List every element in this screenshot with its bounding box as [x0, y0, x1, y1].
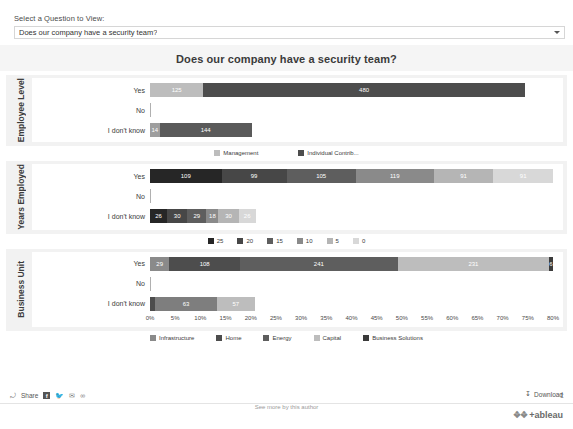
bar-segment[interactable]: 91 [493, 169, 553, 183]
bar-segment[interactable]: 99 [222, 169, 287, 183]
bar-segment[interactable]: 105 [287, 169, 356, 183]
zero-value-tick [150, 277, 151, 291]
panel-axis-title-text: Years Employed [16, 164, 26, 230]
bar-row-label: Yes [32, 87, 150, 94]
x-axis-tick-label: 65% [471, 315, 483, 321]
legend-swatch [150, 335, 156, 341]
question-dropdown[interactable]: Does our company have a security team? [14, 26, 565, 39]
download-group[interactable]: ↧ Download [525, 390, 563, 398]
twitter-icon[interactable]: 🐦 [55, 392, 64, 399]
email-icon[interactable]: ✉ [69, 392, 75, 399]
bottom-toolbar: ⤾ Share f 🐦 ✉ ∞ ↥ [0, 388, 573, 404]
bar-segment[interactable]: 119 [356, 169, 434, 183]
bar-segment[interactable]: 480 [203, 83, 524, 97]
bar-row-label: I don't know [32, 127, 150, 134]
stacked-bar[interactable]: 109991051199191 [150, 169, 553, 183]
page-title: Does our company have a security team? [0, 45, 573, 71]
bar-track [150, 102, 553, 118]
question-filter-zone: Select a Question to View: Does our comp… [0, 0, 573, 39]
bar-row[interactable]: I don't know6357 [32, 296, 553, 312]
legend-item[interactable]: Home [216, 335, 241, 341]
bar-row-label: Yes [32, 173, 150, 180]
tableau-logo[interactable]: ❖❖ +ableau [513, 410, 563, 420]
download-label[interactable]: Download [534, 391, 563, 398]
bar-track: 6357 [150, 296, 553, 312]
legend-item[interactable]: Business Solutions [363, 335, 423, 341]
stacked-bar[interactable]: 125480 [150, 83, 553, 97]
legend-item[interactable]: 0 [353, 238, 365, 244]
legend-item[interactable]: 25 [208, 238, 224, 244]
bar-row[interactable]: No [32, 276, 553, 292]
bar-row[interactable]: I don't know14144 [32, 122, 553, 138]
legend-label: Business Solutions [372, 335, 423, 341]
panel-axis-title: Business Unit [10, 252, 32, 327]
stacked-bar[interactable]: 291082412316 [150, 257, 553, 271]
share-arrow-icon[interactable]: ⤾ [10, 392, 16, 399]
bar-track: 263029183026 [150, 208, 553, 224]
panel-axis-title: Employee Level [10, 78, 32, 142]
chart-legend: 2520151050 [0, 234, 573, 245]
bar-row[interactable]: Yes125480 [32, 82, 553, 98]
legend-label: Management [223, 150, 258, 156]
legend-item[interactable]: 10 [297, 238, 313, 244]
bar-row[interactable]: I don't know263029183026 [32, 208, 553, 224]
x-axis-tick-label: 5% [171, 315, 180, 321]
question-dropdown-value: Does our company have a security team? [19, 28, 157, 37]
bar-segment[interactable]: 241 [240, 257, 398, 271]
bar-segment[interactable]: 26 [239, 209, 256, 223]
bar-segment[interactable]: 91 [434, 169, 494, 183]
legend-item[interactable]: 15 [267, 238, 283, 244]
legend-item[interactable]: Energy [263, 335, 291, 341]
legend-item[interactable]: 5 [327, 238, 339, 244]
facebook-icon[interactable]: f [43, 392, 50, 399]
bar-segment[interactable]: 63 [155, 297, 217, 311]
author-link[interactable]: See more by this author [0, 404, 573, 410]
stacked-bar[interactable]: 263029183026 [150, 209, 553, 223]
bar-track [150, 188, 553, 204]
stacked-bar[interactable]: 14144 [150, 123, 553, 137]
legend-item[interactable]: 20 [237, 238, 253, 244]
legend-item[interactable]: Management [214, 150, 258, 156]
bar-segment[interactable]: 29 [187, 209, 206, 223]
bar-segment[interactable]: 125 [150, 83, 203, 97]
bar-row-label: No [32, 280, 150, 287]
bar-segment[interactable]: 14 [150, 123, 160, 137]
bar-segment[interactable]: 6 [549, 257, 553, 271]
bar-segment[interactable]: 57 [217, 297, 255, 311]
link-icon[interactable]: ∞ [80, 392, 85, 399]
bar-segment[interactable]: 231 [398, 257, 549, 271]
share-label[interactable]: Share [21, 392, 38, 399]
bar-segment[interactable]: 18 [206, 209, 218, 223]
legend-item[interactable]: Infrastructure [150, 335, 194, 341]
x-axis-spacer [32, 315, 150, 325]
bar-segment[interactable]: 30 [167, 209, 187, 223]
x-axis-tick-label: 0% [146, 315, 155, 321]
legend-swatch [298, 150, 304, 156]
legend-item[interactable]: Capital [314, 335, 342, 341]
bar-segment[interactable]: 29 [150, 257, 169, 271]
bar-row[interactable]: No [32, 188, 553, 204]
bar-segment[interactable]: 26 [150, 209, 167, 223]
bar-row[interactable]: Yes291082412316 [32, 256, 553, 272]
chart-panel: Business UnitYes291082412316NoI don't kn… [6, 249, 567, 331]
bar-row[interactable]: Yes109991051199191 [32, 168, 553, 184]
x-axis-tick-label: 15% [220, 315, 232, 321]
bar-segment[interactable]: 30 [218, 209, 238, 223]
zero-value-tick [150, 103, 151, 117]
plot-area: Yes125480NoI don't know14144 [32, 82, 553, 139]
stacked-bar[interactable]: 6357 [150, 297, 553, 311]
panel-axis-title: Years Employed [10, 164, 32, 230]
bar-row[interactable]: No [32, 102, 553, 118]
panel-body: Yes291082412316NoI don't know63570%5%10%… [32, 252, 563, 327]
bar-segment[interactable]: 144 [160, 123, 252, 137]
bar-segment[interactable]: 108 [169, 257, 240, 271]
legend-swatch [267, 238, 273, 244]
bar-segment[interactable]: 109 [150, 169, 222, 183]
x-axis-tick-label: 45% [371, 315, 383, 321]
panels-container: Employee LevelYes125480NoI don't know141… [0, 75, 573, 342]
bar-row-label: Yes [32, 260, 150, 267]
download-arrow-icon[interactable]: ↧ [525, 390, 531, 398]
legend-item[interactable]: Individual Contrib... [298, 150, 358, 156]
chevron-down-icon[interactable] [554, 31, 560, 34]
bar-track: 14144 [150, 122, 553, 138]
